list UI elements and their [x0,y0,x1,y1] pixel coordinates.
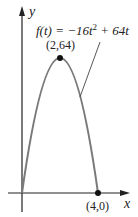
label-leader-line [80,42,100,97]
function-label-suffix: + 64t [97,23,129,38]
vertex-label: (2,64) [46,38,75,53]
root-label: (4,0) [86,199,109,214]
x-axis-label: x [124,196,130,212]
function-label-prefix: f(t) = −16t [36,23,93,38]
y-axis-label: y [29,4,35,20]
root-point [95,190,101,196]
vertex-point [57,55,63,61]
function-label: f(t) = −16t2 + 64t [36,22,129,39]
y-axis-arrow-icon [19,6,25,16]
